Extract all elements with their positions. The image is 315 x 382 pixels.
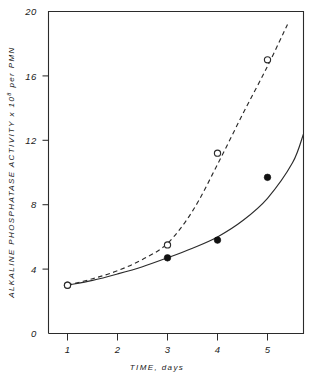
y-tick-label-0: 0 (31, 328, 37, 339)
marker-open-circles-day-3 (164, 242, 170, 248)
marker-open-circles-day-5 (264, 57, 270, 63)
x-tick-label-3: 3 (165, 344, 171, 355)
y-axis-title: ALKALINE PHOSPHATASE ACTIVITY x 108 per … (6, 46, 16, 299)
marker-open-circles-day-1 (64, 282, 70, 288)
marker-filled-circles-day-3 (164, 255, 171, 262)
marker-filled-circles-day-5 (264, 174, 271, 181)
y-tick-label-12: 12 (25, 135, 37, 146)
y-tick-label-20: 20 (24, 6, 37, 17)
y-tick-label-8: 8 (31, 199, 37, 210)
alkaline-phosphatase-activity-chart: 12345 048121620 TIME, days ALKALINE PHOS… (0, 0, 315, 382)
x-axis-title: TIME, days (130, 363, 184, 372)
chart-figure: 12345 048121620 TIME, days ALKALINE PHOS… (0, 0, 315, 382)
x-tick-label-2: 2 (114, 344, 121, 355)
marker-open-circles-day-4 (214, 150, 220, 156)
y-tick-label-4: 4 (31, 264, 37, 275)
x-tick-label-1: 1 (65, 344, 71, 355)
x-tick-label-5: 5 (265, 344, 271, 355)
y-tick-label-16: 16 (25, 71, 37, 82)
x-tick-label-4: 4 (215, 344, 221, 355)
marker-filled-circles-day-4 (214, 237, 221, 244)
